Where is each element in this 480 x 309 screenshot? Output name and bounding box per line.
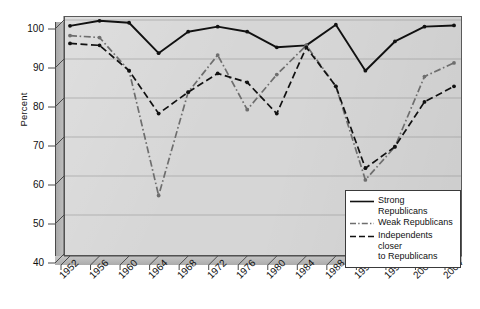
- data-point: [423, 100, 427, 104]
- data-point: [127, 21, 131, 25]
- data-point: [275, 112, 279, 116]
- data-point: [363, 69, 367, 73]
- data-point: [98, 36, 102, 40]
- data-point: [68, 24, 72, 28]
- data-point: [275, 45, 279, 49]
- legend-item-independents: Independents closer to Republicans: [349, 230, 456, 262]
- data-point: [245, 30, 249, 34]
- legend-item-weak-republicans: Weak Republicans: [349, 217, 456, 229]
- data-point: [98, 43, 102, 47]
- data-point: [363, 178, 367, 182]
- data-point: [216, 53, 220, 57]
- legend-swatch-dashdot-icon: [349, 218, 375, 229]
- data-point: [186, 30, 190, 34]
- data-point: [393, 145, 397, 149]
- data-point: [393, 40, 397, 44]
- data-point: [275, 73, 279, 77]
- chart-legend: Strong Republicans Weak Republicans Inde…: [345, 190, 461, 268]
- legend-swatch-dashed-icon: [349, 231, 375, 242]
- series-line-0: [70, 21, 454, 71]
- data-point: [98, 19, 102, 23]
- data-point: [68, 42, 72, 46]
- data-point: [423, 25, 427, 29]
- data-point: [157, 194, 161, 198]
- data-point: [423, 75, 427, 79]
- chart-figure: Percent 405060708090100 1952195619601964…: [0, 0, 480, 309]
- data-point: [157, 51, 161, 55]
- legend-label-weak-republicans: Weak Republicans: [378, 217, 453, 228]
- data-point: [216, 25, 220, 29]
- data-point: [157, 112, 161, 116]
- legend-label-independents: Independents closer to Republicans: [378, 230, 456, 262]
- data-point: [334, 23, 338, 27]
- data-point: [216, 72, 220, 76]
- data-point: [452, 61, 456, 65]
- data-point: [245, 108, 249, 112]
- data-point: [304, 45, 308, 49]
- data-point: [127, 69, 131, 73]
- series-line-2: [70, 43, 454, 168]
- data-point: [452, 84, 456, 88]
- data-point: [334, 84, 338, 88]
- legend-label-strong-republicans: Strong Republicans: [378, 195, 456, 216]
- series-line-1: [70, 36, 454, 196]
- data-point: [68, 34, 72, 38]
- data-point: [363, 166, 367, 170]
- data-point: [452, 24, 456, 28]
- legend-swatch-solid-icon: [349, 196, 375, 207]
- data-point: [186, 90, 190, 94]
- data-point: [245, 81, 249, 85]
- legend-item-strong-republicans: Strong Republicans: [349, 195, 456, 216]
